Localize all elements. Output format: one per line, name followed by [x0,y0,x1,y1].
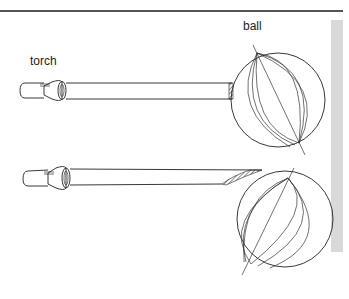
light-beam [70,169,262,185]
light-beam [66,83,233,99]
ball-icon [231,45,325,155]
torch-icon [20,81,66,101]
bottom-figure [23,167,333,276]
diagram-canvas [0,0,349,299]
ball-icon [237,168,333,275]
torch-icon [23,167,70,190]
top-figure [20,45,325,155]
